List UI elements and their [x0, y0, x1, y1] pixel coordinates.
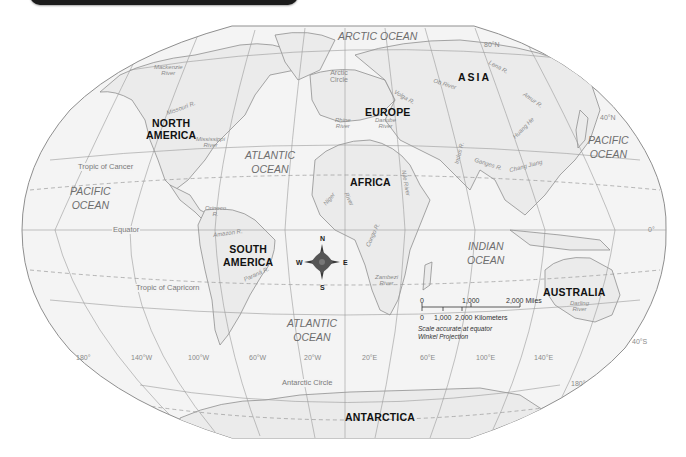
scale-km-1000: 1,000: [434, 314, 452, 321]
lon-20w: 20°W: [304, 354, 321, 361]
lat-40n: 40°N: [600, 114, 616, 121]
antarctic-circle-label: Antarctic Circle: [281, 379, 333, 387]
compass-south: S: [320, 284, 325, 291]
river-orinoco: OrinocoR.: [205, 205, 226, 217]
ocean-atlantic-north: ATLANTICOCEAN: [245, 150, 295, 174]
tropic-of-capricorn-label: Tropic of Capricorn: [135, 284, 201, 292]
river-rhine: RhineRiver: [335, 117, 351, 129]
river-mackenzie: MackenzieRiver: [154, 64, 183, 76]
lon-60w: 60°W: [249, 354, 266, 361]
lon-140w: 140°W: [131, 354, 152, 361]
compass-west: W: [296, 259, 303, 266]
ocean-arctic: ARCTIC OCEAN: [338, 31, 417, 42]
lat-0: 0°: [648, 226, 655, 233]
continent-north-america: NORTHAMERICA: [146, 118, 196, 140]
projection-note: Winkel Projection: [418, 334, 468, 341]
lon-180w: 180°: [76, 354, 90, 361]
lat-40s: 40°S: [632, 338, 647, 345]
tropic-of-cancer-label: Tropic of Cancer: [77, 163, 134, 171]
ocean-pacific-east: PACIFICOCEAN: [588, 135, 629, 159]
lon-100w: 100°W: [188, 354, 209, 361]
river-danube: DanubeRiver: [375, 117, 396, 129]
river-darling: DarlingRiver: [570, 300, 589, 312]
river-zambezi: ZambeziRiver: [375, 274, 398, 286]
scale-note: Scale accurate at equator: [418, 326, 492, 333]
continent-africa: AFRICA: [350, 177, 391, 188]
ocean-atlantic-south: ATLANTICOCEAN: [287, 318, 337, 342]
scale-km-0: 0: [420, 314, 424, 321]
continent-asia: ASIA: [458, 72, 491, 83]
scale-miles-2000: 2,000 Miles: [506, 297, 542, 304]
lon-180e: 180°: [571, 380, 585, 387]
lon-140e: 140°E: [534, 354, 553, 361]
continent-antarctica: ANTARCTICA: [345, 412, 415, 423]
river-mississippi: MississippiRiver: [196, 136, 225, 148]
continent-europe: EUROPE: [365, 107, 411, 118]
equator-label: Equator: [112, 226, 140, 234]
lon-60e: 60°E: [420, 354, 435, 361]
lon-20e: 20°E: [362, 354, 377, 361]
scale-miles-0: 0: [420, 297, 424, 304]
lon-100e: 100°E: [476, 354, 495, 361]
compass-east: E: [343, 259, 348, 266]
scale-km-2000: 2,000 Kilometers: [455, 314, 508, 321]
arctic-circle-label: ArcticCircle: [330, 69, 348, 83]
lat-80n: 80°N: [484, 41, 500, 48]
ocean-indian: INDIANOCEAN: [467, 241, 504, 265]
compass-north: N: [320, 235, 325, 242]
scale-miles-1000: 1,000: [462, 297, 480, 304]
continent-south-america: SOUTHAMERICA: [223, 244, 273, 267]
ocean-pacific-west: PACIFICOCEAN: [70, 186, 111, 210]
continent-australia: AUSTRALIA: [543, 287, 605, 298]
